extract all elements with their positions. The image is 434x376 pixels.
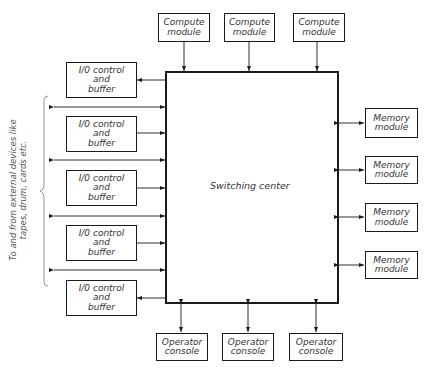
memory-module: Memory module	[365, 108, 418, 138]
compute-module: Compute module	[224, 13, 275, 42]
compute-module: Compute module	[158, 13, 210, 42]
operator-console: Operator console	[289, 333, 343, 361]
switching-center-label: Switching center	[210, 180, 290, 191]
brace-icon	[40, 96, 48, 286]
console-connectors	[181, 304, 316, 332]
operator-console: Operator console	[156, 333, 208, 361]
io-control-buffer: I/0 control and buffer	[66, 280, 137, 316]
compute-module: Compute module	[293, 13, 345, 42]
operator-console: Operator console	[222, 333, 274, 361]
io-connectors	[137, 80, 165, 298]
memory-module: Memory module	[365, 156, 418, 184]
io-control-buffer: I/0 control and buffer	[66, 225, 137, 261]
compute-connectors	[184, 42, 317, 71]
memory-module: Memory module	[365, 251, 418, 279]
memory-connectors	[339, 123, 364, 265]
external-devices-note: To and from external devices like tapes,…	[8, 80, 28, 300]
io-control-buffer: I/0 control and buffer	[66, 116, 137, 152]
io-control-buffer: I/0 control and buffer	[66, 170, 137, 206]
io-control-buffer: I/0 control and buffer	[66, 62, 137, 98]
memory-module: Memory module	[365, 203, 418, 232]
